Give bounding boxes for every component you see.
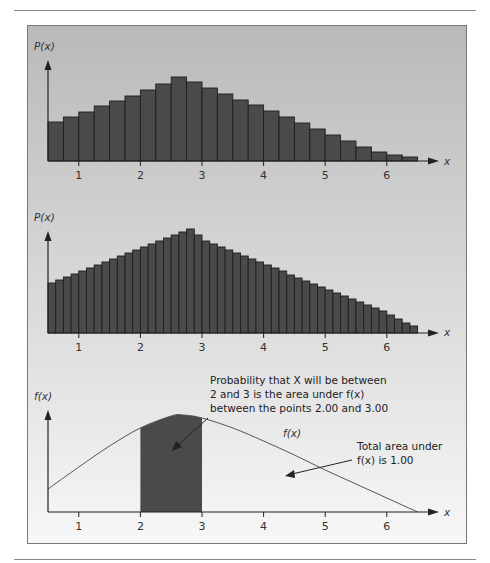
x-tick-label: 2 <box>137 169 144 182</box>
x-tick-label: 4 <box>260 520 267 533</box>
x-tick-label: 3 <box>199 169 206 182</box>
bar <box>256 262 264 333</box>
annotation-probability: Probability that X will be between 2 and… <box>210 374 390 414</box>
bar <box>279 117 294 161</box>
bar <box>79 271 87 333</box>
bar <box>110 259 118 333</box>
bar <box>264 265 272 333</box>
x-tick-label: 1 <box>75 341 82 354</box>
bar <box>140 247 148 333</box>
bar <box>310 129 325 161</box>
bar <box>248 105 263 161</box>
bar <box>264 111 279 161</box>
bar <box>63 277 71 333</box>
bar <box>217 247 225 333</box>
bar <box>356 302 364 333</box>
bar <box>233 253 241 333</box>
x-tick-label: 6 <box>383 341 390 354</box>
bar <box>225 250 233 333</box>
bar <box>164 238 172 333</box>
bar <box>140 90 155 161</box>
bar <box>387 315 395 333</box>
bar <box>310 284 318 333</box>
y-axis-label: P(x) <box>34 40 55 52</box>
x-tick-label: 4 <box>260 341 267 354</box>
bar <box>48 122 63 161</box>
bar <box>341 296 349 333</box>
x-axis-label: x <box>443 506 451 518</box>
bar <box>102 262 110 333</box>
bar <box>71 274 79 333</box>
bar <box>171 235 179 333</box>
bar <box>133 250 141 333</box>
bar <box>125 253 133 333</box>
bar <box>156 84 171 161</box>
bar <box>395 319 403 333</box>
bar <box>125 96 140 161</box>
figure: P(x) 123456 x P(x) 123456 x f(x) 123456 … <box>0 0 490 563</box>
x-tick-label: 1 <box>75 169 82 182</box>
bar <box>94 265 102 333</box>
bar <box>333 293 341 333</box>
x-tick-label: 5 <box>322 341 329 354</box>
x-tick-label: 2 <box>137 341 144 354</box>
bar <box>248 259 256 333</box>
bar <box>402 323 410 333</box>
bar <box>194 235 202 333</box>
x-axis-label: x <box>443 326 451 338</box>
bar <box>348 299 356 333</box>
bar <box>371 308 379 333</box>
bar <box>187 82 202 161</box>
bar <box>279 271 287 333</box>
x-tick-label: 5 <box>322 520 329 533</box>
x-tick-label: 3 <box>199 520 206 533</box>
bar <box>325 135 340 161</box>
bar <box>87 268 95 333</box>
bar <box>371 152 386 161</box>
bar <box>148 244 156 333</box>
bar <box>94 106 109 161</box>
bar <box>271 268 279 333</box>
bar <box>294 278 302 333</box>
bar <box>356 147 371 161</box>
bar <box>302 281 310 333</box>
shaded-area <box>140 415 202 512</box>
bar <box>210 244 218 333</box>
x-tick-label: 3 <box>199 341 206 354</box>
x-tick-label: 6 <box>383 520 390 533</box>
bar <box>294 123 309 161</box>
bar <box>171 77 186 161</box>
bar <box>156 241 164 333</box>
bar <box>187 229 195 333</box>
bar <box>387 155 402 161</box>
bar <box>202 241 210 333</box>
bar <box>379 311 387 333</box>
y-axis-label: P(x) <box>34 211 55 223</box>
bar <box>48 283 56 333</box>
bar <box>364 305 372 333</box>
bar <box>179 232 187 333</box>
x-tick-label: 2 <box>137 520 144 533</box>
bar <box>63 117 78 161</box>
bar <box>318 287 326 333</box>
bar <box>110 101 125 161</box>
x-tick-label: 5 <box>322 169 329 182</box>
bar <box>410 326 418 333</box>
bar <box>241 256 249 333</box>
y-axis-label: f(x) <box>34 390 52 402</box>
bar <box>56 280 64 333</box>
bar <box>217 94 232 161</box>
bar <box>341 141 356 161</box>
x-tick-label: 1 <box>75 520 82 533</box>
x-axis-label: x <box>443 155 451 167</box>
bar <box>233 100 248 161</box>
bar <box>325 290 333 333</box>
bar <box>202 88 217 161</box>
bar <box>117 256 125 333</box>
bar <box>79 112 94 161</box>
x-tick-label: 6 <box>383 169 390 182</box>
curve-label: f(x) <box>283 427 301 439</box>
x-tick-label: 4 <box>260 169 267 182</box>
bar <box>287 275 295 333</box>
